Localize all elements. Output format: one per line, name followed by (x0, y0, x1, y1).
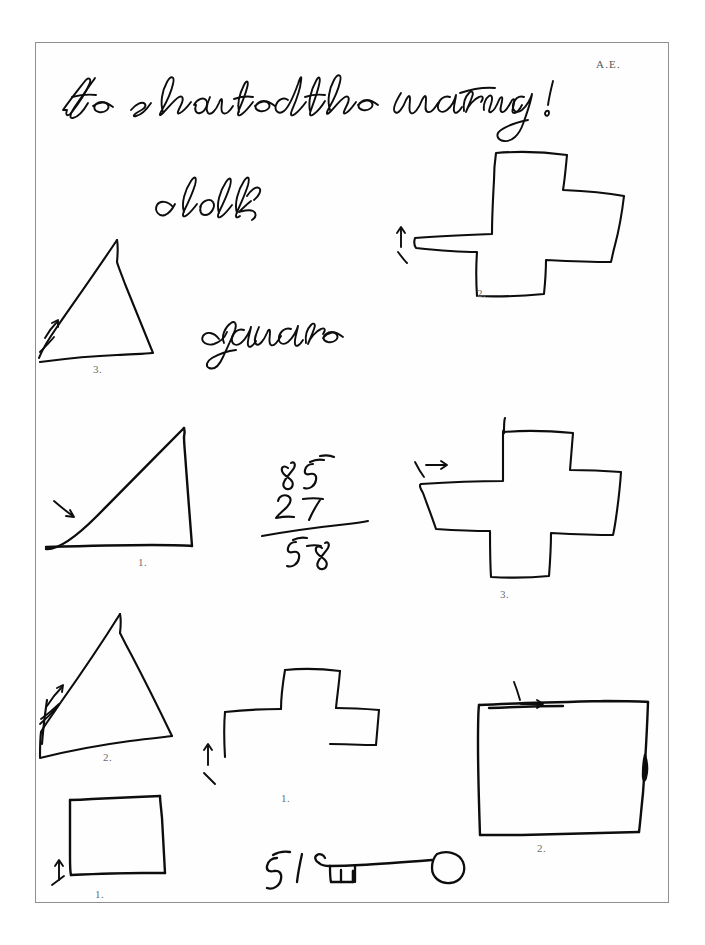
figure-label-square-lower-right: 2. (537, 842, 546, 854)
figure-label-triangle-upper-left: 3. (93, 363, 102, 375)
figure-label-cross-top-right: 2. (477, 287, 486, 299)
figure-label-triangle-middle-left: 1. (138, 556, 147, 568)
figure-label-square-bottom-left: 1. (95, 888, 104, 900)
figure-label-triangle-lower-left: 2. (103, 751, 112, 763)
figure-label-cross-lower-middle: 1. (281, 792, 290, 804)
assessment-sheet: A.E. (0, 0, 705, 945)
patient-initials: A.E. (596, 58, 621, 70)
page-border (35, 42, 669, 903)
figure-label-cross-middle-right: 3. (500, 588, 509, 600)
